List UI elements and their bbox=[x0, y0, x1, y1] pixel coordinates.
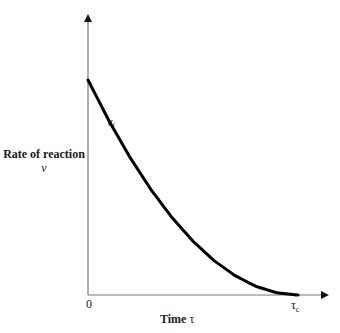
x-axis-title: Time τ bbox=[160, 312, 194, 327]
curve-label: νf bbox=[107, 115, 115, 131]
x-axis-title-text: Time bbox=[160, 312, 186, 326]
tau-c-sub: c bbox=[296, 305, 300, 314]
curve-label-sub: f bbox=[112, 122, 115, 131]
origin-tick-label: 0 bbox=[86, 297, 92, 312]
rate-curve bbox=[88, 80, 298, 295]
x-axis-symbol: τ bbox=[189, 312, 194, 326]
tau-c-tick-label: τc bbox=[291, 298, 299, 314]
y-axis-title: Rate of reaction bbox=[0, 147, 88, 161]
y-axis-symbol: ν bbox=[0, 161, 88, 176]
